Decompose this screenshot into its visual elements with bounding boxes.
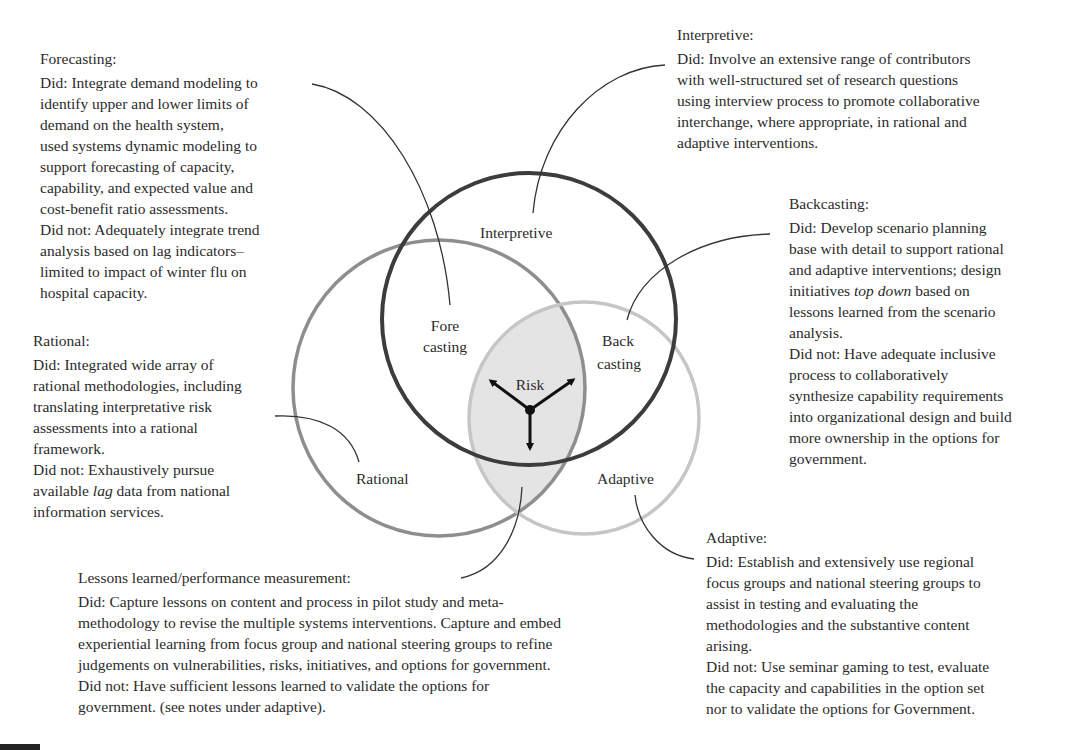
interpretive-line: interchange, where appropriate, in ratio… — [677, 111, 980, 132]
interpretive-line: with well-structured set of research que… — [677, 69, 980, 90]
lessons-line: judgements on vulnerabilities, risks, in… — [78, 654, 561, 675]
forecasting-annotation: Forecasting: Did: Integrate demand model… — [40, 48, 260, 303]
forecasting-leader-line — [312, 84, 450, 305]
forecasting-title: Forecasting: — [40, 48, 260, 69]
backcasting-label-line1: Back — [602, 332, 634, 349]
backcasting-line: Did not: Have adequate inclusive — [789, 343, 1012, 364]
backcasting-line: more ownership in the options for — [789, 427, 1012, 448]
adaptive-label: Adaptive — [597, 470, 654, 487]
rational-label: Rational — [356, 470, 409, 487]
adaptive-line: nor to validate the options for Governme… — [706, 698, 989, 719]
backcasting-title: Backcasting: — [789, 193, 1012, 214]
forecasting-line: hospital capacity. — [40, 282, 260, 303]
backcasting-label-line2: casting — [597, 355, 641, 372]
adaptive-line: the capacity and capabilities in the opt… — [706, 677, 989, 698]
risk-center-dot — [525, 405, 535, 415]
interpretive-line: using interview process to promote colla… — [677, 90, 980, 111]
adaptive-line: Did not: Use seminar gaming to test, eva… — [706, 656, 989, 677]
rational-annotation: Rational: Did: Integrated wide array of … — [33, 330, 242, 522]
rational-line: Did: Integrated wide array of — [33, 354, 242, 375]
rational-line: rational methodologies, including — [33, 375, 242, 396]
forecasting-line: used systems dynamic modeling to — [40, 135, 260, 156]
backcasting-line: initiatives top down based on — [789, 280, 1012, 301]
rational-line: information services. — [33, 501, 242, 522]
cropped-caption-fragment — [0, 744, 40, 750]
adaptive-line: Did: Establish and extensively use regio… — [706, 551, 989, 572]
emphasis-lag: lag — [93, 482, 113, 499]
interpretive-line: Did: Involve an extensive range of contr… — [677, 48, 980, 69]
forecasting-line: Did not: Adequately integrate trend — [40, 219, 260, 240]
interpretive-line: adaptive interventions. — [677, 132, 980, 153]
rational-line: available lag data from national — [33, 480, 242, 501]
adaptive-line: arising. — [706, 635, 989, 656]
adaptive-line: focus groups and national steering group… — [706, 572, 989, 593]
risk-label: Risk — [516, 376, 545, 393]
lessons-line: Did not: Have sufficient lessons learned… — [78, 675, 561, 696]
rational-line: translating interpretative risk — [33, 396, 242, 417]
forecasting-line: analysis based on lag indicators– — [40, 240, 260, 261]
lessons-title: Lessons learned/performance measurement: — [78, 567, 561, 588]
forecasting-line: identify upper and lower limits of — [40, 93, 260, 114]
forecasting-line: limited to impact of winter flu on — [40, 261, 260, 282]
forecasting-line: cost-benefit ratio assessments. — [40, 198, 260, 219]
rational-line: Did not: Exhaustively pursue — [33, 459, 242, 480]
backcasting-line: Did: Develop scenario planning — [789, 217, 1012, 238]
interpretive-title: Interpretive: — [677, 24, 980, 45]
interpretive-annotation: Interpretive: Did: Involve an extensive … — [677, 24, 980, 153]
backcasting-line: process to collaboratively — [789, 364, 1012, 385]
forecasting-label-line1: Fore — [431, 317, 460, 334]
rational-line: framework. — [33, 438, 242, 459]
forecasting-line: capability, and expected value and — [40, 177, 260, 198]
adaptive-leader-line — [635, 495, 694, 559]
lessons-line: Did: Capture lessons on content and proc… — [78, 591, 561, 612]
lessons-line: methodology to revise the multiple syste… — [78, 612, 561, 633]
rational-line: assessments into a rational — [33, 417, 242, 438]
adaptive-annotation: Adaptive: Did: Establish and extensively… — [706, 527, 989, 719]
adaptive-line: methodologies and the substantive conten… — [706, 614, 989, 635]
interpretive-label: Interpretive — [480, 224, 552, 241]
backcasting-line: lessons learned from the scenario — [789, 301, 1012, 322]
backcasting-line: and adaptive interventions; design — [789, 259, 1012, 280]
backcasting-line: base with detail to support rational — [789, 238, 1012, 259]
forecasting-line: Did: Integrate demand modeling to — [40, 72, 260, 93]
forecasting-line: demand on the health system, — [40, 114, 260, 135]
backcasting-line: into organizational design and build — [789, 406, 1012, 427]
rational-leader-line — [275, 416, 359, 462]
lessons-annotation: Lessons learned/performance measurement:… — [78, 567, 561, 717]
backcasting-line: synthesize capability requirements — [789, 385, 1012, 406]
rational-title: Rational: — [33, 330, 242, 351]
lessons-line: government. (see notes under adaptive). — [78, 696, 561, 717]
forecasting-label-line2: casting — [423, 338, 467, 355]
forecasting-line: support forecasting of capacity, — [40, 156, 260, 177]
backcasting-leader-line — [627, 234, 770, 320]
backcasting-annotation: Backcasting: Did: Develop scenario plann… — [789, 193, 1012, 469]
backcasting-line: analysis. — [789, 322, 1012, 343]
backcasting-line: government. — [789, 448, 1012, 469]
emphasis-top-down: top down — [854, 282, 911, 299]
adaptive-title: Adaptive: — [706, 527, 989, 548]
lessons-line: experiential learning from focus group a… — [78, 633, 561, 654]
adaptive-line: assist in testing and evaluating the — [706, 593, 989, 614]
